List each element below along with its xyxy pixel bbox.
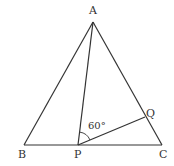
segment-ab xyxy=(24,22,93,145)
angle-label: 60° xyxy=(88,120,106,131)
label-a: A xyxy=(88,4,98,17)
label-p: P xyxy=(74,148,82,161)
label-c: C xyxy=(159,148,167,161)
label-q: Q xyxy=(146,107,155,120)
label-b: B xyxy=(18,148,26,161)
triangle-figure: A B P C Q 60° xyxy=(0,0,174,166)
angle-arc-apq xyxy=(80,132,90,140)
geometry-diagram: A B P C Q 60° xyxy=(0,0,174,166)
